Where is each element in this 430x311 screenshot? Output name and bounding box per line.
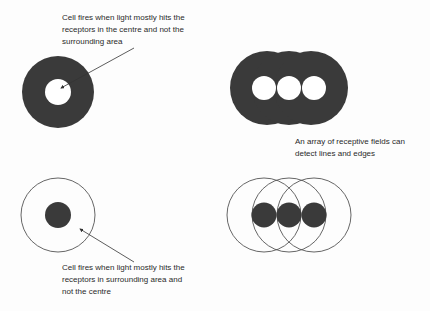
caption-off-center: Cell fires when light mostly hits the re… — [62, 262, 185, 298]
centre-filled — [45, 202, 71, 228]
off-center-field — [21, 178, 95, 252]
caption-array: An array of receptive fields can detect … — [295, 136, 405, 160]
centre-filled — [252, 203, 277, 228]
centre-filled — [302, 203, 327, 228]
centre-white — [302, 76, 326, 100]
off-center-array — [227, 178, 351, 252]
on-center-array — [230, 51, 348, 125]
centre-filled — [277, 203, 302, 228]
centre-white — [277, 76, 301, 100]
caption-on-center: Cell fires when light mostly hits the re… — [62, 12, 185, 48]
on-center-field — [22, 56, 94, 128]
arrow-to-surround — [80, 229, 134, 262]
centre-white — [252, 76, 276, 100]
receptive-fields-diagram: Cell fires when light mostly hits the re… — [0, 0, 430, 311]
centre-white — [45, 79, 71, 105]
